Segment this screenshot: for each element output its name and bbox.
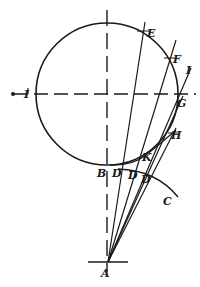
label-I-right: I <box>185 64 192 77</box>
label-C: C <box>163 195 172 208</box>
axis-endpoint-dot <box>11 92 15 96</box>
label-E: E <box>146 27 156 40</box>
label-D3: D <box>140 173 151 186</box>
label-A: A <box>100 267 110 280</box>
label-H: H <box>170 129 182 142</box>
geometric-construction-diagram: A B D D D C E F G H I I K <box>0 0 200 287</box>
label-F: F <box>172 53 182 66</box>
label-D2: D <box>127 169 138 182</box>
label-B: B <box>96 167 106 180</box>
label-G: G <box>177 97 186 110</box>
label-K: K <box>141 151 152 164</box>
label-D1: D <box>111 167 122 180</box>
label-I-left: I <box>23 88 30 101</box>
